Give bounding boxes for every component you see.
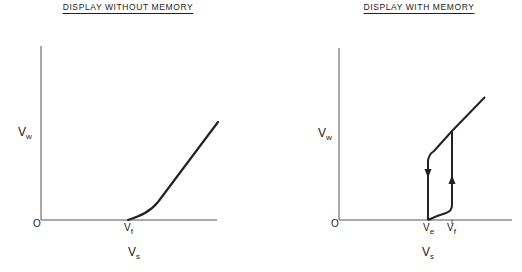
right-y-axis-label: Vw [318, 126, 332, 142]
right-panel-title: DISPLAY WITH MEMORY [363, 2, 474, 12]
left-tick-vf: Vf [124, 222, 133, 236]
right-tick-ve: Ve [423, 222, 434, 236]
diagram-canvas [0, 0, 522, 272]
right-tick-vf: Vf [447, 222, 456, 236]
hysteresis-loop [425, 97, 486, 220]
right-origin-label: O [331, 218, 339, 229]
right-axes [339, 48, 512, 224]
left-origin-label: O [33, 218, 41, 229]
up-arrow-icon [449, 175, 456, 184]
left-panel-title: DISPLAY WITHOUT MEMORY [63, 2, 194, 12]
right-x-axis-label: Vs [422, 245, 434, 261]
down-arrow-icon [425, 169, 432, 178]
left-transfer-curve [128, 122, 218, 220]
left-y-axis-label: Vw [18, 125, 32, 141]
left-x-axis-label: Vs [128, 245, 140, 261]
left-axes [41, 46, 217, 220]
